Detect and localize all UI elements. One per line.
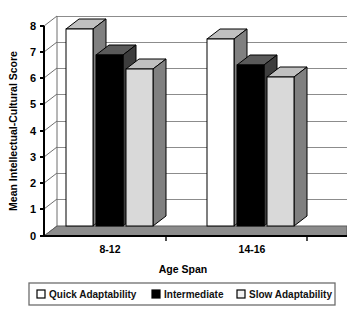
y-axis: 8 7 6 5 4 3 2 1 0 Mean Intellectual-Cult… <box>7 20 44 242</box>
chart-canvas: 8 7 6 5 4 3 2 1 0 Mean Intellectual-Cult… <box>0 0 347 312</box>
white-square-marker-icon <box>37 290 45 298</box>
y-tick-label-6: 6 <box>30 72 36 84</box>
x-axis-title: Age Span <box>159 263 207 275</box>
black-square-marker-icon <box>152 290 160 298</box>
y-tick-label-1: 1 <box>30 203 36 215</box>
legend-item-slow-adaptability[interactable]: Slow Adaptability <box>237 289 332 300</box>
y-tick-label-4: 4 <box>30 125 37 137</box>
y-tick-label-0: 0 <box>30 230 36 242</box>
legend-label-intermediate: Intermediate <box>164 289 224 300</box>
y-tick-label-5: 5 <box>30 98 36 110</box>
y-tick-label-3: 3 <box>30 151 36 163</box>
legend-item-quick-adaptability[interactable]: Quick Adaptability <box>37 289 137 300</box>
x-tick-label-8-12: 8-12 <box>99 243 120 255</box>
x-axis: 8-12 14-16 Age Span <box>44 236 347 275</box>
legend-label-quick-adaptability: Quick Adaptability <box>49 289 137 300</box>
y-tick-label-7: 7 <box>30 46 36 58</box>
y-axis-title: Mean Intellectual-Cultural Score <box>7 51 19 211</box>
y-tick-label-2: 2 <box>30 177 36 189</box>
chart-legend: Quick Adaptability Intermediate Slow Ada… <box>29 283 335 305</box>
light-gray-square-marker-icon <box>237 290 245 298</box>
left-side-wall <box>44 16 57 236</box>
bar-chart-figure: 8 7 6 5 4 3 2 1 0 Mean Intellectual-Cult… <box>0 0 347 312</box>
bar-slow-8-12 <box>126 59 166 226</box>
legend-label-slow-adaptability: Slow Adaptability <box>249 289 332 300</box>
y-tick-label-8: 8 <box>30 20 36 32</box>
x-tick-label-14-16: 14-16 <box>239 243 266 255</box>
bar-slow-14-16 <box>267 67 307 226</box>
chart-floor <box>44 226 347 236</box>
